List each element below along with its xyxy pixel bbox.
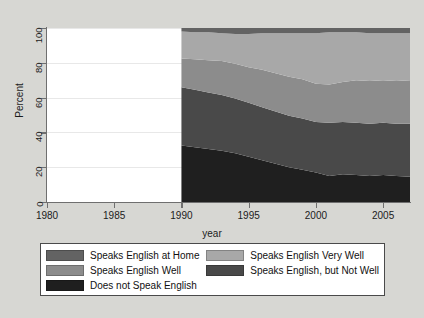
legend-label: Speaks English, but Not Well (250, 265, 379, 276)
legend-item: Speaks English Very Well (206, 248, 379, 263)
y-tick-label: 20 (34, 167, 45, 178)
y-tick-label: 80 (34, 62, 45, 73)
plot-inner (47, 28, 410, 202)
x-tick-label: 2000 (305, 210, 327, 221)
y-tick-label: 60 (34, 97, 45, 108)
legend-label: Speaks English at Home (90, 250, 200, 261)
legend-item: Does not Speak English (46, 278, 206, 293)
legend-label: Speaks English Very Well (250, 250, 364, 261)
y-axis-title: Percent (14, 83, 25, 117)
stata-graph-figure: 020406080100 198019851990199520002005 Pe… (0, 0, 424, 318)
x-tick-mark (383, 203, 384, 208)
stacked-area-series (47, 28, 410, 202)
x-tick-label: 1995 (238, 210, 260, 221)
legend-label: Does not Speak English (90, 280, 197, 291)
x-tick-label: 2005 (372, 210, 394, 221)
x-tick-label: 1985 (103, 210, 125, 221)
x-axis-title: year (0, 228, 424, 239)
y-tick-label: 40 (34, 132, 45, 143)
legend-item: Speaks English, but Not Well (206, 263, 379, 278)
x-tick-mark (47, 203, 48, 208)
legend-swatch (46, 250, 84, 261)
legend-swatch (206, 250, 244, 261)
plot-area (47, 28, 410, 202)
legend-item: Speaks English Well (46, 263, 206, 278)
legend-swatch (46, 265, 84, 276)
legend-box: Speaks English at HomeSpeaks English Ver… (40, 243, 385, 296)
y-tick-label: 100 (34, 28, 45, 44)
legend-items: Speaks English at HomeSpeaks English Ver… (46, 248, 379, 291)
x-tick-mark (114, 203, 115, 208)
x-tick-mark (181, 203, 182, 208)
legend-label: Speaks English Well (90, 265, 181, 276)
x-tick-mark (316, 203, 317, 208)
legend-item: Speaks English at Home (46, 248, 206, 263)
legend-swatch (46, 280, 84, 291)
y-axis-line (46, 27, 47, 203)
y-tick-label: 0 (34, 202, 45, 207)
x-tick-label: 1980 (36, 210, 58, 221)
x-axis-line (46, 202, 411, 203)
x-tick-label: 1990 (170, 210, 192, 221)
legend-swatch (206, 265, 244, 276)
x-tick-mark (249, 203, 250, 208)
